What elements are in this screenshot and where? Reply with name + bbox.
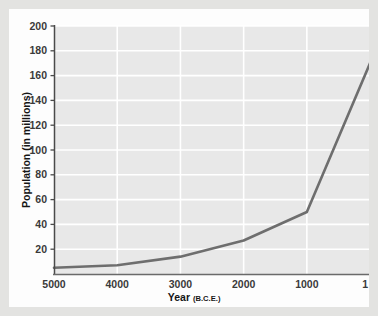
x-axis-title: Year (168, 291, 190, 303)
x-tick-label: 4000 (106, 278, 130, 290)
x-tick-label: 1 (362, 278, 368, 290)
y-tick-label: 160 (29, 69, 47, 81)
y-tick-label: 40 (35, 218, 47, 230)
y-axis-tick-marks (51, 26, 55, 249)
x-tick-label: 1000 (295, 278, 319, 290)
y-tick-label: 180 (29, 44, 47, 56)
figure-card: 20406080100120140160180200 5000400030002… (9, 9, 369, 307)
y-tick-label: 60 (35, 193, 47, 205)
y-axis-title: Population (in millions) (20, 92, 32, 208)
y-tick-label: 200 (29, 20, 47, 32)
population-line-chart: 20406080100120140160180200 5000400030002… (9, 9, 369, 307)
x-tick-label: 5000 (42, 278, 66, 290)
y-tick-label: 140 (29, 94, 47, 106)
x-axis-title-suffix: (B.C.E.) (193, 294, 221, 303)
chart-svg: 20406080100120140160180200 5000400030002… (9, 9, 369, 307)
x-tick-label: 3000 (169, 278, 193, 290)
y-tick-label: 80 (35, 168, 47, 180)
x-tick-label: 2000 (232, 278, 256, 290)
x-axis-tick-labels: 500040003000200010001 (42, 278, 368, 290)
y-axis-tick-labels: 20406080100120140160180200 (29, 20, 47, 255)
y-tick-label: 120 (29, 119, 47, 131)
y-tick-label: 20 (35, 243, 47, 255)
y-tick-label: 100 (29, 144, 47, 156)
